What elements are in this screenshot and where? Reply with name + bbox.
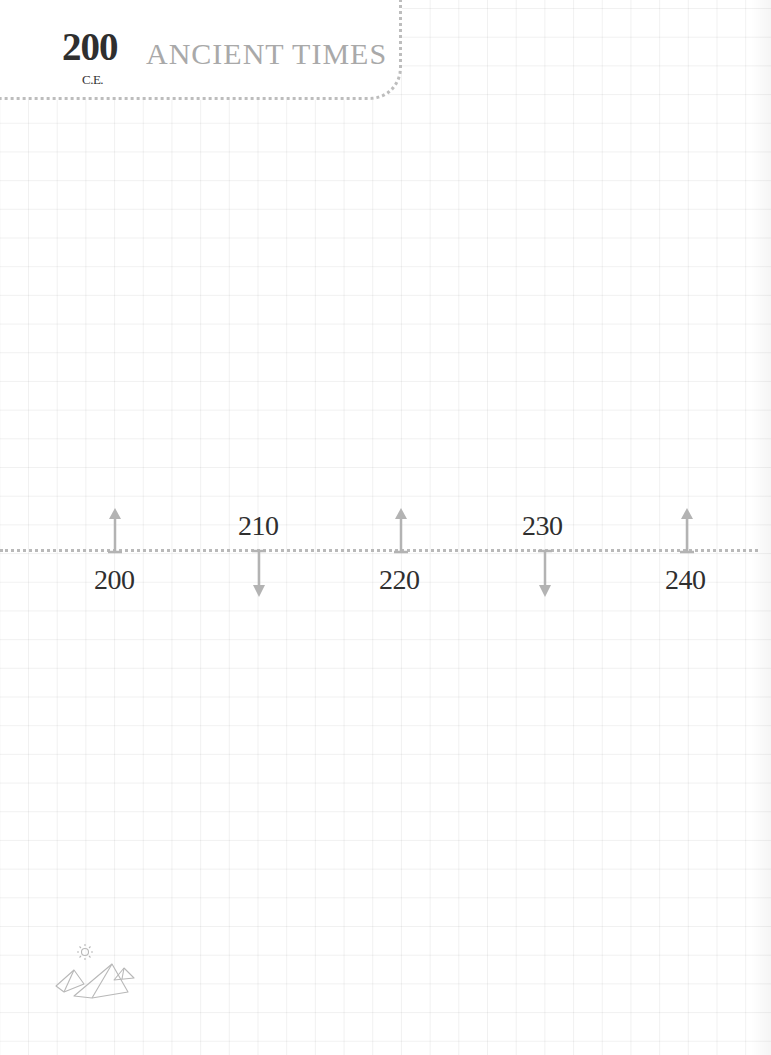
- arrow-down-icon: [530, 548, 560, 600]
- header-era: C.E.: [82, 73, 103, 86]
- timeline-tick-230: [530, 548, 560, 648]
- timeline-label-200: 200: [94, 566, 135, 594]
- timeline-label-210: 210: [238, 512, 279, 540]
- pyramids-icon: [52, 940, 142, 1000]
- grid-page: 200 C.E. ANCIENT TIMES 200 210 220: [0, 0, 771, 1055]
- page-edge-shadow: [751, 0, 771, 1055]
- arrow-down-icon: [244, 548, 274, 600]
- page-title: ANCIENT TIMES: [146, 39, 387, 69]
- header-year: 200: [62, 27, 118, 66]
- timeline-label-220: 220: [379, 566, 420, 594]
- timeline-label-230: 230: [522, 512, 563, 540]
- arrow-up-icon: [672, 505, 702, 557]
- timeline-tick-210: [244, 548, 274, 648]
- arrow-up-icon: [386, 505, 416, 557]
- timeline-label-240: 240: [665, 566, 706, 594]
- arrow-up-icon: [100, 505, 130, 557]
